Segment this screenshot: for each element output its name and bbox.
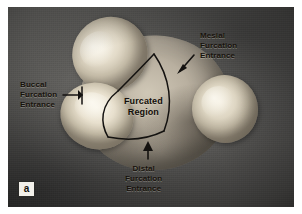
label-buccal-furcation-entrance: Buccal Furcation Entrance xyxy=(20,80,57,110)
label-line: Buccal xyxy=(20,80,57,90)
root-tip-highlight xyxy=(70,87,118,129)
label-furcated-region: Furcated Region xyxy=(124,96,163,118)
label-line: Distal xyxy=(125,164,162,174)
label-line: Region xyxy=(124,107,163,118)
root-tip-highlight xyxy=(73,25,125,75)
label-line: Furcation xyxy=(125,174,162,184)
label-line: Furcated xyxy=(124,96,163,107)
figure-root: Mesial Furcation Entrance Buccal Furcati… xyxy=(0,0,302,214)
photographic-plate: Mesial Furcation Entrance Buccal Furcati… xyxy=(8,7,294,207)
label-distal-furcation-entrance: Distal Furcation Entrance xyxy=(125,164,162,194)
label-mesial-furcation-entrance: Mesial Furcation Entrance xyxy=(200,31,237,61)
label-line: Entrance xyxy=(125,184,162,194)
label-line: Furcation xyxy=(200,41,237,51)
label-line: Furcation xyxy=(20,90,57,100)
label-line: Entrance xyxy=(200,51,237,61)
panel-label: a xyxy=(18,181,35,197)
label-line: Mesial xyxy=(200,31,237,41)
label-line: Entrance xyxy=(20,100,57,110)
root-tip-highlight xyxy=(198,83,238,122)
